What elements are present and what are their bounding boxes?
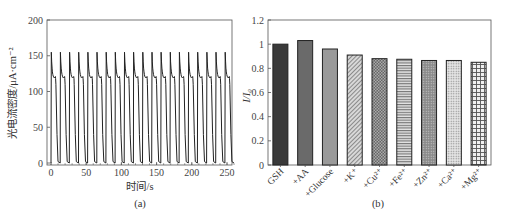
bar-series xyxy=(273,41,486,165)
x-axis-a: 050100150200250 xyxy=(49,162,235,178)
bar xyxy=(273,44,288,165)
category-label: +Mg²⁺ xyxy=(458,166,484,192)
bar xyxy=(471,62,486,165)
x-tick-label: 0 xyxy=(49,167,54,178)
bar xyxy=(446,60,461,165)
x-tick-label: 250 xyxy=(220,167,235,178)
x-tick-label: 200 xyxy=(184,167,199,178)
category-label: +Cu²⁺ xyxy=(361,166,385,190)
x-axis-label-a: 时间/s xyxy=(126,180,153,192)
y-tick-label: 50 xyxy=(33,122,43,133)
y-axis-label-a: 光电流密度/μA·cm⁻² xyxy=(6,47,18,138)
category-label: +Zn²⁺ xyxy=(411,166,435,190)
y-tick-label: 0 xyxy=(259,160,264,171)
photocurrent-trace xyxy=(51,52,234,163)
caption-a: (a) xyxy=(134,198,146,210)
category-label: +K⁺ xyxy=(341,166,360,185)
category-label: +AA xyxy=(290,166,311,187)
bar xyxy=(298,41,313,165)
bar xyxy=(397,59,412,165)
x-axis-b: GSH+AA+Glucose+K⁺+Cu²⁺+Fe²⁺+Zn²⁺+Ca²⁺+Mg… xyxy=(265,165,484,199)
bar xyxy=(322,49,337,165)
y-tick-label: 150 xyxy=(28,50,43,61)
category-label: +Fe²⁺ xyxy=(387,166,410,189)
bar xyxy=(422,60,437,165)
panel-b: 00.20.40.60.811.2 GSH+AA+Glucose+K⁺+Cu²⁺… xyxy=(241,15,491,211)
y-tick-label: 1.2 xyxy=(252,15,265,26)
y-tick-label: 0 xyxy=(38,158,43,169)
y-tick-label: 0.6 xyxy=(252,87,265,98)
y-tick-label: 0.8 xyxy=(252,63,265,74)
y-tick-label: 100 xyxy=(28,86,43,97)
y-tick-label: 0.2 xyxy=(252,135,265,146)
y-axis-label-b: I/I₀ xyxy=(241,89,252,104)
y-tick-label: 200 xyxy=(28,15,43,26)
figure: 050100150200 050100150200250 光电流密度/μA·cm… xyxy=(0,0,506,216)
panel-a: 050100150200 050100150200250 光电流密度/μA·cm… xyxy=(6,15,235,211)
category-label: GSH xyxy=(265,166,286,187)
category-label: +Ca²⁺ xyxy=(435,166,459,190)
bar xyxy=(347,55,362,165)
y-tick-label: 0.4 xyxy=(252,111,265,122)
bar xyxy=(372,59,387,165)
y-tick-label: 1 xyxy=(259,39,264,50)
x-tick-label: 50 xyxy=(81,167,91,178)
caption-b: (b) xyxy=(372,198,385,210)
x-tick-label: 150 xyxy=(149,167,164,178)
x-tick-label: 100 xyxy=(114,167,129,178)
